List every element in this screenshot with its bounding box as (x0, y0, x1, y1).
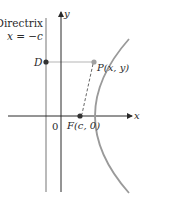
x-axis-label: x (134, 110, 140, 121)
point-f (77, 113, 82, 118)
point-d (43, 59, 48, 64)
point-p (91, 59, 96, 64)
point-f-label: F(c, 0) (66, 120, 100, 131)
point-p-label: P(x, y) (96, 62, 129, 73)
directrix-label: Directrix (0, 17, 43, 29)
y-axis-label: y (63, 8, 70, 19)
origin-label: 0 (52, 121, 58, 132)
directrix-equation-label: x = −c (7, 30, 43, 42)
parabola-diagram: Directrix x = −c y x 0 D P(x, y) F(c, 0) (0, 0, 189, 210)
point-d-label: D (33, 56, 43, 68)
dashed-segment-pf (82, 64, 93, 114)
